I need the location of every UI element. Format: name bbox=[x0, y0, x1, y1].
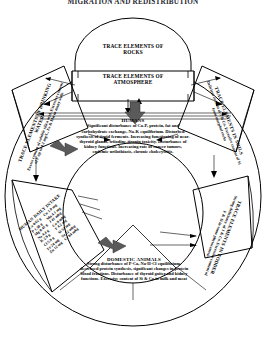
animals-node-label: DOMESTIC ANIMALS Strong disturbance of P… bbox=[78, 257, 190, 282]
animals-body: Strong disturbance of P-Ca, Na-H-Cl equi… bbox=[78, 262, 190, 282]
atmosphere-label-line2: ATMOSPHERE bbox=[114, 79, 153, 85]
intake-to-animals-arrow bbox=[98, 237, 126, 253]
water-to-intake-arrowhead bbox=[33, 175, 39, 182]
atmosphere-node-label: TRACE ELEMENTS OF ATMOSPHERE bbox=[78, 74, 188, 85]
circle-to-fodder-arrowhead-1 bbox=[190, 234, 197, 238]
diagram-canvas: MIGRATION AND REDISTRIBUTION bbox=[0, 0, 266, 340]
humans-node-label: HUMANS Significant disturbance of Ca-P, … bbox=[76, 118, 190, 154]
soils-to-fodder-arrowhead bbox=[211, 171, 217, 178]
rocks-label-line2: ROCKS bbox=[123, 49, 143, 55]
rocks-node-label: TRACE ELEMENTS OF ROCKS bbox=[78, 44, 188, 55]
humans-body: Significant disturbance of Ca-P, protein… bbox=[76, 123, 190, 153]
